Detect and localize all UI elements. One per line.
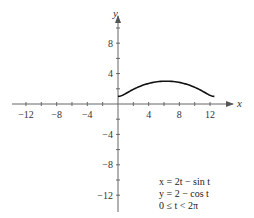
y-tick-label: 4 — [108, 68, 113, 79]
equation-x: x = 2t − sin t — [159, 176, 210, 188]
x-ticks: −12−8−44812 — [18, 102, 215, 120]
cycloid-curve — [118, 81, 214, 96]
x-tick-label: 12 — [205, 109, 215, 120]
parametric-equations: x = 2t − sin t y = 2 − cos t 0 ≤ t < 2π — [159, 176, 210, 212]
y-tick-label: −8 — [102, 159, 113, 170]
y-tick-label: 8 — [108, 38, 113, 49]
equation-y: y = 2 − cos t — [159, 188, 210, 200]
x-axis-label: x — [236, 97, 242, 109]
x-tick-label: −12 — [18, 109, 34, 120]
x-tick-label: 4 — [146, 109, 151, 120]
y-tick-label: −12 — [97, 190, 113, 201]
y-tick-label: −4 — [102, 129, 113, 140]
plot-canvas: −12−8−44812 84−4−8−12 x y — [0, 0, 254, 218]
x-tick-label: 8 — [177, 109, 182, 120]
y-ticks: 84−4−8−12 — [97, 28, 120, 201]
parameter-range: 0 ≤ t < 2π — [159, 200, 210, 212]
y-axis-label: y — [112, 7, 118, 19]
x-tick-label: −4 — [82, 109, 93, 120]
x-tick-label: −8 — [51, 109, 62, 120]
